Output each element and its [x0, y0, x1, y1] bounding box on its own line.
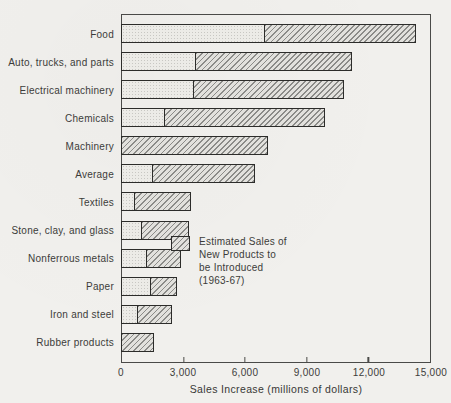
bar-segment-existing — [122, 53, 196, 70]
bar — [121, 277, 177, 296]
bar-segment-existing — [122, 109, 165, 126]
x-tick-mark — [245, 357, 246, 362]
bar-segment-new-products — [122, 334, 153, 351]
category-label: Rubber products — [36, 337, 114, 348]
bar-row: Textiles — [122, 192, 430, 211]
bar-segment-new-products — [138, 306, 171, 323]
legend-label: Estimated Sales of New Products to be In… — [199, 235, 287, 287]
x-axis-title: Sales Increase (millions of dollars) — [121, 383, 431, 395]
x-tick-label: 12,000 — [353, 367, 385, 378]
legend-line: New Products to — [199, 248, 287, 261]
bar — [121, 136, 268, 155]
x-tick-label: 9,000 — [294, 367, 321, 378]
bar-segment-existing — [122, 222, 142, 239]
bar-row: Rubber products — [122, 333, 430, 352]
sales-increase-bar-chart: FoodAuto, trucks, and partsElectrical ma… — [0, 0, 451, 403]
bar-segment-new-products — [122, 137, 267, 154]
bar-segment-existing — [122, 81, 194, 98]
bar-segment-existing — [122, 25, 265, 42]
bar-segment-existing — [122, 306, 138, 323]
bar-segment-existing — [122, 250, 147, 267]
bar-segment-new-products — [135, 193, 190, 210]
bar — [121, 52, 352, 71]
bar — [121, 108, 325, 127]
x-tick-mark — [368, 357, 369, 362]
x-tick-label: 6,000 — [232, 367, 259, 378]
legend: Estimated Sales of New Products to be In… — [171, 235, 287, 287]
category-label: Auto, trucks, and parts — [8, 56, 114, 67]
bar-row: Food — [122, 24, 430, 43]
bar — [121, 305, 172, 324]
bar-segment-new-products — [194, 81, 343, 98]
bar-segment-new-products — [196, 53, 351, 70]
category-label: Average — [75, 168, 114, 179]
category-label: Machinery — [66, 140, 114, 151]
x-tick-mark — [306, 357, 307, 362]
x-tick-label: 3,000 — [170, 367, 197, 378]
bar-row: Average — [122, 164, 430, 183]
hatch-swatch-icon — [171, 236, 190, 251]
plot-area: FoodAuto, trucks, and partsElectrical ma… — [121, 14, 431, 363]
x-tick-mark — [183, 357, 184, 362]
bar-segment-existing — [122, 165, 153, 182]
category-label: Textiles — [79, 196, 114, 207]
category-label: Iron and steel — [50, 309, 114, 320]
bar-row: Iron and steel — [122, 305, 430, 324]
bar-row: Machinery — [122, 136, 430, 155]
bar — [121, 80, 344, 99]
legend-line: Estimated Sales of — [199, 235, 287, 248]
bar-row: Chemicals — [122, 108, 430, 127]
bar-segment-new-products — [265, 25, 414, 42]
bar — [121, 24, 416, 43]
category-label: Electrical machinery — [20, 84, 114, 95]
legend-line: be Introduced — [199, 261, 287, 274]
bar — [121, 164, 255, 183]
category-label: Paper — [86, 281, 114, 292]
bar-segment-new-products — [165, 109, 324, 126]
legend-line: (1963-67) — [199, 274, 287, 287]
category-label: Stone, clay, and glass — [11, 225, 114, 236]
category-label: Nonferrous metals — [28, 253, 114, 264]
bar-row: Auto, trucks, and parts — [122, 52, 430, 71]
x-axis: 03,0006,0009,00012,00015,000 — [121, 367, 431, 380]
bar-segment-existing — [122, 278, 151, 295]
bar-segment-existing — [122, 193, 135, 210]
bar-segment-new-products — [153, 165, 255, 182]
x-tick-label: 0 — [118, 367, 124, 378]
x-tick-label: 15,000 — [415, 367, 447, 378]
bar — [121, 333, 154, 352]
category-label: Food — [90, 28, 114, 39]
category-label: Chemicals — [65, 112, 114, 123]
bar-row: Electrical machinery — [122, 80, 430, 99]
bar — [121, 192, 191, 211]
